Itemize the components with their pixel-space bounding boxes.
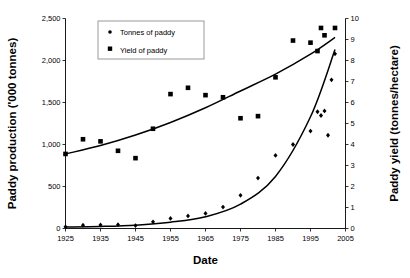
data-point-diamond — [326, 133, 330, 138]
data-point-diamond — [186, 214, 190, 219]
data-point-square — [333, 26, 338, 31]
x-tick-label: 1995 — [302, 234, 319, 243]
data-point-square — [133, 156, 138, 161]
left-tick-label: 500 — [48, 182, 61, 191]
data-point-square — [308, 40, 313, 45]
right-tick-label: 2 — [351, 182, 355, 191]
data-point-square — [168, 92, 173, 97]
chart-legend: Tonnes of paddy Yield of paddy — [98, 21, 204, 59]
data-point-diamond — [330, 77, 334, 82]
data-point-square — [238, 116, 243, 121]
data-point-square — [63, 152, 68, 157]
data-point-square — [256, 114, 261, 119]
data-point-square — [116, 149, 121, 154]
left-tick-label: 0 — [56, 224, 60, 233]
data-point-square — [203, 93, 208, 98]
y-axis-title: Paddy production ('000 tonnes) — [6, 38, 18, 210]
paddy-production-yield-chart: 05001,0001,5002,0002,500 012345678910 19… — [0, 0, 410, 278]
data-point-diamond — [319, 113, 323, 118]
right-tick-label: 3 — [351, 161, 355, 170]
data-point-diamond — [134, 223, 138, 228]
data-point-diamond — [204, 211, 208, 216]
data-point-diamond — [239, 193, 243, 198]
legend-marker-diamond-icon — [108, 30, 112, 34]
left-tick-label: 1,000 — [42, 140, 61, 149]
data-point-square — [151, 126, 156, 131]
x-tick-label: 1975 — [232, 234, 249, 243]
chart-canvas: 05001,0001,5002,0002,500 012345678910 19… — [0, 0, 410, 278]
right-tick-label: 6 — [351, 98, 355, 107]
x-tick-label: 1955 — [162, 234, 179, 243]
data-point-square — [322, 33, 327, 38]
data-point-square — [98, 139, 103, 144]
data-point-diamond — [309, 129, 313, 134]
data-point-square — [319, 26, 324, 31]
left-tick-label: 2,500 — [42, 14, 61, 23]
series-tonnes-of-paddy-points — [64, 51, 338, 229]
data-point-diamond — [256, 176, 260, 181]
data-point-diamond — [291, 142, 295, 147]
right-tick-label: 0 — [351, 224, 355, 233]
x-axis-ticks: 192519351945195519651975198519952005 — [57, 229, 354, 243]
x-tick-label: 2005 — [337, 234, 354, 243]
x-tick-label: 1965 — [197, 234, 214, 243]
data-point-square — [81, 137, 86, 142]
data-point-square — [186, 86, 191, 91]
left-tick-label: 1,500 — [42, 98, 61, 107]
right-tick-label: 9 — [351, 35, 355, 44]
right-tick-label: 4 — [351, 140, 355, 149]
left-tick-label: 2,000 — [42, 56, 61, 65]
data-point-diamond — [323, 109, 327, 114]
right-tick-label: 10 — [351, 14, 359, 23]
data-point-square — [291, 38, 296, 43]
trend-curves — [66, 37, 336, 227]
x-axis-title: Date — [193, 254, 218, 266]
data-point-square — [273, 75, 278, 80]
x-tick-label: 1935 — [92, 234, 109, 243]
x-tick-label: 1925 — [57, 234, 74, 243]
data-point-diamond — [169, 216, 173, 221]
trend-curve — [66, 50, 336, 227]
data-point-diamond — [221, 205, 225, 210]
right-tick-label: 5 — [351, 119, 355, 128]
data-point-square — [315, 49, 320, 54]
data-point-square — [221, 95, 226, 100]
legend-marker-square-icon — [108, 47, 112, 51]
y2-axis-title: Paddy yield (tonnes/hectare) — [388, 45, 400, 202]
right-tick-label: 1 — [351, 203, 355, 212]
legend-label-tonnes-of-paddy: Tonnes of paddy — [120, 28, 175, 37]
legend-label-yield-of-paddy: Yield of paddy — [120, 46, 168, 55]
left-axis-ticks: 05001,0001,5002,0002,500 — [42, 14, 66, 233]
data-point-diamond — [274, 153, 278, 158]
right-tick-label: 8 — [351, 56, 355, 65]
x-tick-label: 1985 — [267, 234, 284, 243]
right-tick-label: 7 — [351, 77, 355, 86]
right-axis-ticks: 012345678910 — [346, 14, 359, 233]
x-tick-label: 1945 — [127, 234, 144, 243]
data-point-diamond — [316, 109, 320, 114]
